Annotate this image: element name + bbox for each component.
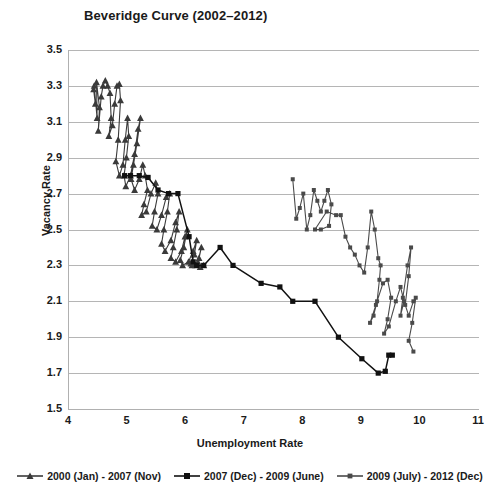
data-point-marker	[164, 208, 171, 214]
data-point-marker	[379, 263, 383, 267]
data-point-marker	[358, 263, 362, 267]
data-point-marker	[315, 199, 319, 203]
legend-item-2[interactable]: 2007 (Dec) - 2009 (June)	[174, 470, 324, 482]
x-axis-tick-label: 6	[170, 414, 200, 426]
data-point-marker	[411, 299, 415, 303]
y-axis-tick-label: 2.7	[18, 187, 62, 199]
data-point-marker	[348, 245, 352, 249]
data-point-marker	[131, 186, 138, 192]
data-point-marker	[201, 263, 206, 268]
data-point-marker	[122, 183, 129, 189]
data-point-marker	[143, 208, 150, 214]
data-point-marker	[230, 263, 235, 268]
data-point-marker	[122, 173, 127, 178]
data-point-marker	[117, 97, 124, 103]
data-point-marker	[155, 187, 160, 192]
data-point-marker	[151, 208, 158, 214]
data-point-marker	[376, 371, 381, 376]
x-axis-tick-label: 7	[229, 414, 259, 426]
data-point-marker	[130, 161, 137, 167]
data-point-marker	[131, 151, 138, 157]
data-point-marker	[134, 140, 141, 146]
data-point-marker	[319, 210, 323, 214]
data-point-marker	[301, 192, 305, 196]
chart-title: Beveridge Curve (2002–2012)	[84, 8, 267, 23]
data-point-marker	[313, 228, 317, 232]
data-point-marker	[124, 115, 131, 121]
data-point-marker	[137, 115, 144, 121]
data-point-marker	[167, 237, 174, 243]
data-point-marker	[291, 177, 295, 181]
data-point-marker	[326, 188, 330, 192]
data-point-marker	[218, 245, 223, 250]
legend-item-1[interactable]: 2000 (Jan) - 2007 (Nov)	[17, 470, 161, 482]
data-point-marker	[406, 263, 410, 267]
data-point-marker	[374, 303, 378, 307]
square-marker-icon	[174, 470, 200, 482]
y-axis-tick-label: 2.1	[18, 294, 62, 306]
y-axis-tick-label: 1.5	[18, 402, 62, 414]
data-point-marker	[399, 314, 403, 318]
y-axis-tick-label: 1.7	[18, 366, 62, 378]
data-point-marker	[137, 173, 142, 178]
data-point-marker	[386, 278, 390, 282]
data-point-marker	[401, 296, 405, 300]
chart-legend: 2000 (Jan) - 2007 (Nov)2007 (Dec) - 2009…	[0, 470, 500, 482]
data-point-marker	[381, 281, 385, 285]
series-2	[122, 173, 395, 376]
data-point-marker	[368, 321, 372, 325]
data-point-marker	[115, 136, 122, 142]
x-axis-tick-label: 11	[463, 414, 493, 426]
data-point-marker	[394, 299, 398, 303]
data-point-marker	[375, 299, 379, 303]
y-axis-tick-label: 2.5	[18, 223, 62, 235]
triangle-marker-icon	[17, 470, 43, 482]
data-point-marker	[334, 213, 338, 217]
data-point-marker	[105, 133, 112, 139]
data-point-marker	[409, 245, 413, 249]
data-point-marker	[290, 299, 295, 304]
legend-label: 2007 (Dec) - 2009 (June)	[204, 470, 324, 482]
data-point-marker	[160, 226, 167, 232]
legend-label: 2000 (Jan) - 2007 (Nov)	[47, 470, 161, 482]
data-point-marker	[112, 158, 119, 164]
data-point-marker	[399, 285, 403, 289]
data-point-marker	[329, 202, 333, 206]
data-point-marker	[170, 244, 177, 250]
square-marker-icon	[337, 470, 363, 482]
plot-area	[68, 50, 479, 410]
data-point-marker	[372, 314, 376, 318]
x-axis-tick-label: 8	[287, 414, 317, 426]
data-point-marker	[407, 274, 411, 278]
y-axis-tick-label: 2.3	[18, 258, 62, 270]
data-point-marker	[362, 271, 366, 275]
data-point-marker	[403, 303, 407, 307]
legend-item-3[interactable]: 2009 (July) - 2012 (Dec)	[337, 470, 483, 482]
data-point-marker	[410, 321, 414, 325]
data-point-marker	[382, 332, 386, 336]
data-point-marker	[343, 235, 347, 239]
data-point-marker	[158, 240, 165, 246]
data-point-marker	[369, 210, 373, 214]
data-point-marker	[93, 79, 100, 85]
data-point-marker	[193, 237, 200, 243]
data-point-marker	[386, 317, 390, 321]
series-3	[291, 177, 418, 353]
data-point-marker	[92, 100, 99, 106]
y-axis-tick-label: 1.9	[18, 330, 62, 342]
data-point-marker	[298, 206, 302, 210]
data-point-marker	[111, 100, 118, 106]
data-point-marker	[98, 93, 105, 99]
data-point-marker	[305, 228, 309, 232]
y-axis-tick-label: 3.3	[18, 79, 62, 91]
data-point-marker	[175, 191, 180, 196]
x-axis-tick-label: 4	[53, 414, 83, 426]
data-point-marker	[319, 228, 323, 232]
y-axis-tick-label: 3.1	[18, 115, 62, 127]
data-point-marker	[322, 199, 326, 203]
data-point-marker	[162, 247, 169, 253]
y-axis-tick-label: 2.9	[18, 151, 62, 163]
legend-label: 2009 (July) - 2012 (Dec)	[367, 470, 483, 482]
data-point-marker	[158, 212, 165, 218]
series-line	[125, 176, 393, 373]
